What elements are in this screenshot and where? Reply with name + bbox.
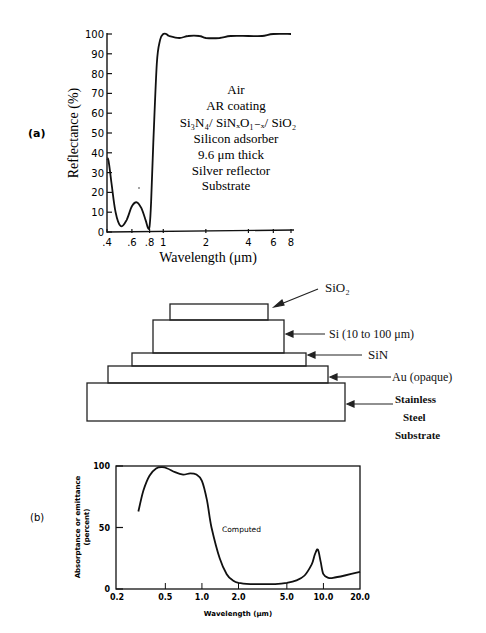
x-tick-label: 6 xyxy=(270,237,276,248)
x-tick-label: 20.0 xyxy=(350,593,370,602)
x-tick-label: 4 xyxy=(245,237,251,248)
layer-si xyxy=(153,320,284,353)
legend-line: Silver reflector xyxy=(192,163,271,178)
y-tick-label: 10 xyxy=(91,207,104,218)
x-tick-label: 2.0 xyxy=(231,593,246,602)
arrowhead-icon xyxy=(274,300,284,307)
layer-sin xyxy=(132,353,306,366)
y-tick-label: 100 xyxy=(85,29,104,40)
label-si: Si (10 to 100 μm) xyxy=(329,327,414,341)
y-tick-label: 80 xyxy=(91,69,104,80)
panel-a-y-ticks: 0102030405060708090100 xyxy=(85,29,112,238)
panel-b: (b) Absorptance or emittance (percent) 0… xyxy=(30,462,370,618)
figure-canvas: (a) Reflectance (%) Wavelength (μm) 0102… xyxy=(0,0,486,633)
y-tick-label: 40 xyxy=(91,148,104,159)
panel-a-layer-stack-legend: AirAR coatingSi₃N₄/ SiNₓO₁₋ₓ/ SiO₂Silico… xyxy=(180,82,296,193)
y-tick-label: 30 xyxy=(91,168,104,179)
panel-b-y-ticks: 050100 xyxy=(93,462,123,594)
x-tick-label: 2 xyxy=(203,237,209,248)
label-sio2: SiO₂ xyxy=(325,280,350,295)
layer-diagram xyxy=(87,304,345,421)
layer-au xyxy=(108,366,328,383)
x-tick-label: 1.0 xyxy=(195,593,210,602)
x-tick-label: 0.5 xyxy=(158,593,173,602)
panel-b-computed-annotation: Computed xyxy=(222,525,261,534)
layer-labels: SiO₂ Si (10 to 100 μm) SiN Au (opaque) S… xyxy=(325,280,452,441)
speck xyxy=(138,187,140,189)
panel-a-x-axis-label: Wavelength (μm) xyxy=(159,250,257,266)
x-tick-label: 1 xyxy=(160,237,166,248)
panel-b-y-axis-label-line1: Absorptance or emittance xyxy=(74,475,82,578)
panel-b-y-axis-label-line2: (percent) xyxy=(83,509,91,546)
label-au: Au (opaque) xyxy=(392,370,452,384)
arrowhead-icon xyxy=(330,374,337,380)
x-tick-label: .6 xyxy=(127,237,137,248)
y-tick-label: 70 xyxy=(91,88,104,99)
label-steel-line1: Stainless xyxy=(395,393,437,405)
panel-b-label: (b) xyxy=(30,512,44,523)
y-tick-label: 50 xyxy=(91,128,104,139)
legend-line: Si₃N₄/ SiNₓO₁₋ₓ/ SiO₂ xyxy=(180,115,296,130)
arrowhead-icon xyxy=(286,331,293,337)
y-tick-label: 50 xyxy=(99,524,111,533)
x-tick-label: .4 xyxy=(102,237,112,248)
panel-a-x-axis xyxy=(107,230,294,232)
y-tick-label: 60 xyxy=(91,108,104,119)
x-tick-label: 5.0 xyxy=(280,593,295,602)
layer-sio2 xyxy=(170,304,268,320)
legend-line: Air xyxy=(227,82,245,97)
x-tick-label: 8 xyxy=(288,237,294,248)
y-tick-label: 100 xyxy=(93,462,110,471)
arrowhead-icon xyxy=(308,352,315,358)
y-tick-label: 90 xyxy=(91,49,104,60)
legend-line: Silicon adsorber xyxy=(194,131,280,146)
arrowhead-icon xyxy=(347,401,354,407)
label-steel-line2: Steel xyxy=(403,411,426,423)
legend-line: AR coating xyxy=(206,98,266,113)
x-tick-label: 10.0 xyxy=(314,593,334,602)
x-tick-label: .8 xyxy=(145,237,155,248)
panel-b-x-axis-label: Wavelength (μm) xyxy=(204,610,272,618)
label-sin: SiN xyxy=(368,347,389,362)
label-steel-line3: Substrate xyxy=(395,429,440,441)
y-tick-label: 20 xyxy=(91,187,104,198)
legend-line: 9.6 μm thick xyxy=(198,147,264,162)
panel-a-y-axis-label: Reflectance (%) xyxy=(66,87,82,178)
panel-a-label: (a) xyxy=(28,127,45,140)
legend-line: Substrate xyxy=(202,178,251,193)
panel-a: (a) Reflectance (%) Wavelength (μm) 0102… xyxy=(28,29,296,266)
layer-stainless-steel xyxy=(87,383,345,421)
x-tick-label: 0.2 xyxy=(110,593,124,602)
panel-b-x-ticks: 0.20.51.02.05.010.020.0 xyxy=(110,583,370,602)
